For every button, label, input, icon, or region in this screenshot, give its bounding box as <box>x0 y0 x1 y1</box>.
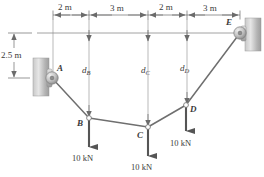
sag-label-dB: dB <box>82 66 90 75</box>
cable-segment-CD <box>148 105 186 127</box>
cable-segment-AB <box>52 78 89 118</box>
dimension-label-span-3: 2 m <box>159 3 173 12</box>
dimension-label-span-2: 3 m <box>110 4 124 13</box>
support-A <box>33 58 58 96</box>
dimension-label-height: 2.5 m <box>1 51 22 60</box>
load-label-C: 10 kN <box>131 163 152 172</box>
sag-label-dC-sub: C <box>146 69 150 76</box>
cable-segments <box>52 33 240 127</box>
point-label-C: C <box>137 131 143 140</box>
sag-dimension-lines <box>53 19 187 127</box>
sag-label-dD: dD <box>180 64 189 73</box>
load-label-D: 10 kN <box>170 139 191 148</box>
pin-A <box>50 76 54 80</box>
sag-label-dB-sub: B <box>87 69 91 76</box>
point-label-E: E <box>226 18 232 27</box>
support-E <box>234 18 261 51</box>
point-label-A: A <box>57 64 63 73</box>
sag-label-dC-main: d <box>141 65 146 75</box>
diagram-canvas <box>0 0 264 177</box>
joint-D <box>184 103 189 108</box>
joint-B <box>87 116 92 121</box>
sag-label-dC: dC <box>141 66 150 75</box>
sag-label-dB-main: d <box>82 65 87 75</box>
load-label-B: 10 kN <box>72 154 93 163</box>
joint-C <box>146 125 151 130</box>
cable-segment-BC <box>89 118 148 127</box>
point-label-D: D <box>190 105 197 114</box>
sag-label-dD-main: d <box>180 63 185 73</box>
cable-structure-figure: 2 m 3 m 2 m 3 m 2.5 m dB dC dD A B C D E… <box>0 0 264 177</box>
dimension-label-span-4: 3 m <box>203 4 217 13</box>
sag-label-dD-sub: D <box>185 67 190 74</box>
dimension-label-span-1: 2 m <box>58 3 72 12</box>
pin-E <box>238 31 242 35</box>
cable-segment-DE <box>186 33 240 105</box>
point-label-B: B <box>77 119 83 128</box>
